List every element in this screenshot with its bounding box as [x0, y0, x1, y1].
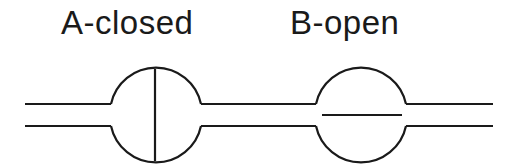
- valve-b-body-bottom: [316, 126, 406, 162]
- gate-valve-diagram: [0, 0, 517, 164]
- valve-b-body-top: [316, 68, 406, 104]
